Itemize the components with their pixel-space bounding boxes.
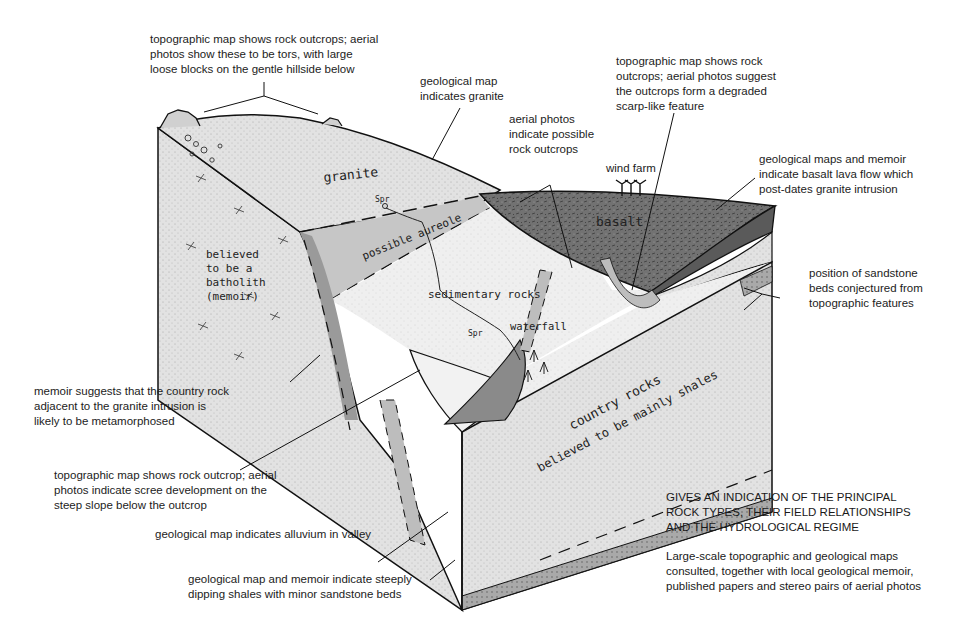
annotation-metamorphosed: memoir suggests that the country rock ad… (34, 384, 229, 429)
annotation-scarp: topographic map shows rock outcrops; aer… (616, 54, 776, 114)
label-batholith-1: believed (206, 248, 259, 261)
caption-block: GIVES AN INDICATION OF THE PRINCIPAL ROC… (666, 490, 966, 594)
annotation-basalt: geological maps and memoir indicate basa… (759, 152, 913, 197)
annotation-tors: topographic map shows rock outcrops; aer… (150, 32, 378, 77)
label-batholith-3: batholith (206, 276, 266, 289)
annotation-sandstone-beds: position of sandstone beds conjectured f… (809, 266, 923, 311)
tors-outcrop (160, 110, 200, 128)
label-spring-2: Spr (468, 329, 483, 338)
annotation-granite-map: geological map indicates granite (420, 74, 504, 104)
annotation-aerial-outcrops: aerial photos indicate possible rock out… (509, 112, 594, 157)
annotation-scree: topographic map shows rock outcrop; aeri… (54, 468, 276, 513)
label-spring-1: Spr (375, 195, 390, 204)
label-batholith-4: (memoir) (206, 290, 259, 303)
label-batholith-2: to be a (206, 262, 252, 275)
annotation-shales: geological map and memoir indicate steep… (188, 572, 412, 602)
label-sedimentary: sedimentary rocks (428, 288, 541, 301)
caption-heading: GIVES AN INDICATION OF THE PRINCIPAL ROC… (666, 490, 966, 535)
wind-farm-label: wind farm (605, 162, 656, 174)
label-waterfall: waterfall (510, 320, 567, 332)
annotation-alluvium: geological map indicates alluvium in val… (155, 527, 371, 542)
caption-sources: Large-scale topographic and geological m… (666, 549, 966, 594)
label-basalt: basalt (596, 214, 643, 229)
